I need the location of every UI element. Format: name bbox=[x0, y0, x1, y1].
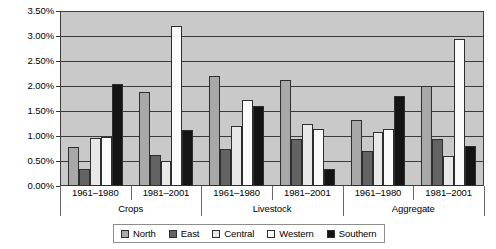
x-axis: 1961–19801981–20011961–19801981–20011961… bbox=[60, 186, 484, 220]
bar bbox=[351, 120, 362, 186]
y-tick-label: 1.00% bbox=[0, 131, 54, 141]
y-tick-label: 2.00% bbox=[0, 81, 54, 91]
legend-swatch-southern bbox=[327, 230, 335, 238]
bar bbox=[383, 129, 394, 187]
bar bbox=[171, 26, 182, 186]
bar bbox=[324, 169, 335, 187]
legend-swatch-east bbox=[169, 230, 177, 238]
bar bbox=[362, 151, 373, 186]
bar bbox=[209, 76, 220, 186]
bar bbox=[394, 96, 405, 186]
bar bbox=[68, 147, 79, 186]
period-label: 1961–1980 bbox=[201, 187, 272, 199]
y-tick-label: 0.50% bbox=[0, 156, 54, 166]
bar bbox=[280, 80, 291, 186]
period-label: 1961–1980 bbox=[60, 187, 131, 199]
legend-swatch-north bbox=[121, 230, 129, 238]
bar bbox=[112, 84, 123, 187]
bar bbox=[161, 161, 172, 186]
legend-swatch-central bbox=[212, 230, 220, 238]
y-tick-label: 3.50% bbox=[0, 6, 54, 16]
bar-chart: 0.00%0.50%1.00%1.50%2.00%2.50%3.00%3.50%… bbox=[0, 0, 496, 249]
legend-label: Western bbox=[279, 229, 314, 239]
bar bbox=[253, 106, 264, 186]
legend: NorthEastCentralWesternSouthern bbox=[113, 224, 385, 243]
bar bbox=[373, 132, 384, 186]
x-tick-mark bbox=[484, 186, 485, 216]
bar bbox=[465, 146, 476, 186]
period-label: 1981–2001 bbox=[272, 187, 343, 199]
x-tick-mark bbox=[272, 186, 273, 200]
bar bbox=[432, 139, 443, 187]
bar bbox=[139, 92, 150, 186]
bar bbox=[101, 137, 112, 186]
y-tick-label: 0.00% bbox=[0, 181, 54, 191]
bar bbox=[182, 130, 193, 186]
y-tick-label: 2.50% bbox=[0, 56, 54, 66]
legend-item[interactable]: North bbox=[121, 229, 156, 239]
period-label: 1981–2001 bbox=[413, 187, 484, 199]
bar bbox=[220, 149, 231, 187]
x-tick-mark bbox=[413, 186, 414, 200]
y-tick-label: 1.50% bbox=[0, 106, 54, 116]
legend-label: Central bbox=[224, 229, 254, 239]
legend-item[interactable]: East bbox=[169, 229, 200, 239]
legend-swatch-western bbox=[267, 230, 275, 238]
group-label: Livestock bbox=[201, 203, 342, 215]
legend-label: Southern bbox=[339, 229, 377, 239]
legend-item[interactable]: Central bbox=[212, 229, 254, 239]
bar bbox=[443, 156, 454, 186]
bar bbox=[291, 139, 302, 187]
group-label: Crops bbox=[60, 203, 201, 215]
legend-item[interactable]: Southern bbox=[327, 229, 377, 239]
legend-label: East bbox=[181, 229, 200, 239]
bar bbox=[90, 138, 101, 187]
bar bbox=[79, 169, 90, 187]
bar bbox=[313, 129, 324, 187]
bar bbox=[150, 155, 161, 186]
bar bbox=[454, 39, 465, 187]
bar bbox=[421, 86, 432, 186]
legend-label: North bbox=[133, 229, 156, 239]
legend-item[interactable]: Western bbox=[267, 229, 314, 239]
bar bbox=[302, 124, 313, 187]
period-label: 1961–1980 bbox=[343, 187, 414, 199]
bar bbox=[231, 126, 242, 186]
bars-layer bbox=[60, 11, 484, 186]
group-label: Aggregate bbox=[343, 203, 484, 215]
period-label: 1981–2001 bbox=[131, 187, 202, 199]
y-tick-label: 3.00% bbox=[0, 31, 54, 41]
bar bbox=[242, 100, 253, 186]
plot-area bbox=[60, 11, 484, 186]
x-tick-mark bbox=[131, 186, 132, 200]
